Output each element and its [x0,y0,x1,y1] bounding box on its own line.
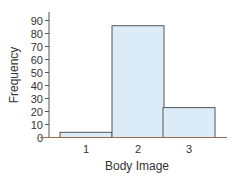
y-tick-label: 50 [31,67,43,79]
x-axis-title: Body Image [105,159,169,173]
y-tick-label: 60 [31,54,43,66]
bar-1 [60,132,112,137]
y-axis-ticks: 0102030405060708090 [31,15,49,144]
y-axis-title: Frequency [7,47,21,104]
x-tick-label: 3 [186,143,192,155]
y-tick-label: 40 [31,80,43,92]
x-axis-tick-labels: 123 [83,143,192,155]
y-tick-label: 30 [31,93,43,105]
bars [60,26,215,138]
x-tick-label: 2 [135,143,141,155]
y-tick-label: 90 [31,15,43,27]
y-tick-label: 10 [31,119,43,131]
bar-2 [112,26,164,138]
y-tick-label: 80 [31,28,43,40]
x-tick-label: 1 [83,143,89,155]
y-tick-label: 70 [31,41,43,53]
y-tick-label: 20 [31,106,43,118]
histogram-chart: 0102030405060708090 123 Body Image Frequ… [0,0,240,181]
bar-3 [163,108,215,138]
